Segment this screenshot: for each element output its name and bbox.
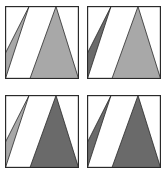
shapes-bottom-left [5, 95, 79, 168]
panel-top-right [87, 6, 161, 79]
panel-bottom-left [5, 95, 79, 168]
shapes-top-right [87, 6, 161, 79]
panel-bottom-right [87, 95, 161, 168]
shapes-bottom-right [87, 95, 161, 168]
shapes-top-left [5, 6, 79, 79]
panel-top-left [5, 6, 79, 79]
